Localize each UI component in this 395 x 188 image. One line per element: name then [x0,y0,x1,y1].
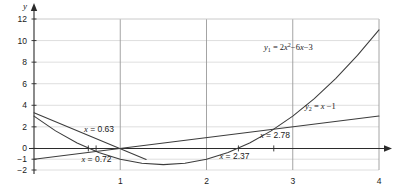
y-tick-label: 12 [18,14,28,24]
y-tick-label: 8 [22,57,27,67]
y-axis-label: y [22,1,27,11]
y-tick-label: 0 [22,143,27,153]
equation-label-y2: y2 = x −1 [304,101,336,112]
x-tick-label: 2 [204,176,209,186]
y-tick-label: 6 [22,79,27,89]
ann-063: x = 0.63 [83,124,114,134]
x-tick-label: 3 [290,176,295,186]
y-tick-label: 10 [18,36,28,46]
ann-237: x = 2.37 [218,151,249,161]
x-tick-label: 4 [377,176,382,186]
y-tick-label: 2 [22,122,27,132]
x-tick-label: 1 [118,176,123,186]
chart-background [0,0,395,188]
chart-container: 121086420−1−2 1234 x = 0.63x = 0.72x = 2… [0,0,395,188]
ann-072: x = 0.72 [80,154,111,164]
y-tick-label: −2 [17,165,27,175]
y-tick-label: −1 [17,154,27,164]
function-plot: 121086420−1−2 1234 x = 0.63x = 0.72x = 2… [0,0,395,188]
y-tick-label: 4 [22,100,27,110]
ann-278: x = 2.78 [259,130,290,140]
